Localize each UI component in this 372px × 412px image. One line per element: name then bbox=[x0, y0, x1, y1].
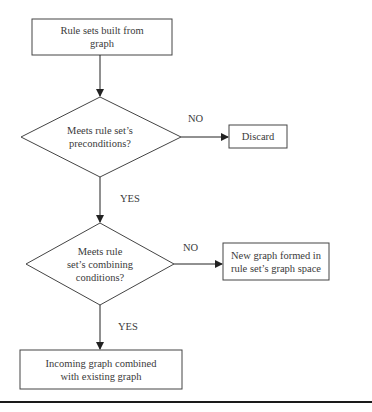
decision1-label-line-2: preconditions? bbox=[69, 138, 131, 149]
start-label: Rule sets built fromgraph bbox=[32, 19, 172, 55]
discard-label-text: Discard bbox=[242, 130, 275, 143]
new-graph-label-line-1: New graph formed in bbox=[231, 250, 321, 261]
discard-label: Discard bbox=[229, 125, 287, 148]
bottom-rule-divider bbox=[0, 401, 372, 403]
decision2-label-line-2: set’s combining bbox=[67, 259, 133, 270]
edge-label-no-1: NO bbox=[188, 113, 203, 124]
new-graph-label: New graph formed inrule set’s graph spac… bbox=[223, 243, 329, 280]
new-graph-label-line-2: rule set’s graph space bbox=[231, 263, 321, 274]
combined-label-line-1: Incoming graph combined bbox=[46, 358, 157, 369]
combined-label-line-2: with existing graph bbox=[60, 371, 141, 382]
decision2-label-line-3: conditions? bbox=[76, 272, 124, 283]
combined-label: Incoming graph combinedwith existing gra… bbox=[20, 350, 182, 389]
decision2-label-line-1: Meets rule bbox=[78, 246, 123, 257]
start-label-line-2: graph bbox=[90, 38, 114, 49]
decision1-label: Meets rule set’spreconditions? bbox=[45, 117, 155, 157]
edge-label-yes-2: YES bbox=[118, 321, 138, 332]
start-label-line-1: Rule sets built from bbox=[60, 25, 143, 36]
edge-label-no-2: NO bbox=[183, 242, 198, 253]
decision2-label: Meets ruleset’s combiningconditions? bbox=[45, 242, 155, 286]
edge-label-yes-1: YES bbox=[120, 193, 140, 204]
decision1-label-line-1: Meets rule set’s bbox=[67, 125, 133, 136]
